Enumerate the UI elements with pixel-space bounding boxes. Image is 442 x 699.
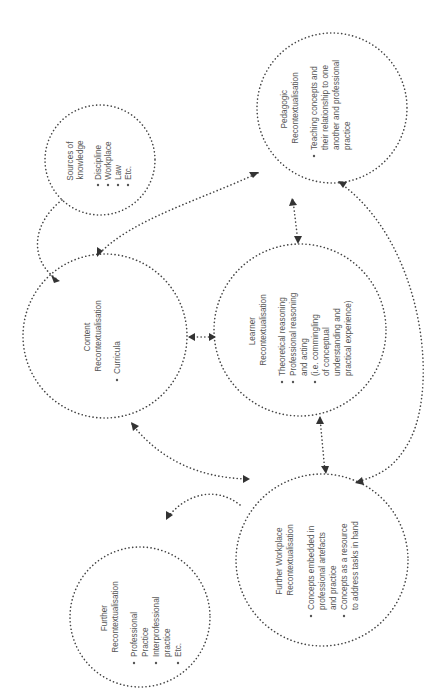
node-further-circle bbox=[70, 547, 210, 687]
node-pedagogic: Pedagogic Recontextualisation Teaching c… bbox=[280, 58, 352, 158]
arrowhead-icon bbox=[166, 511, 173, 520]
list-item: Curricula bbox=[113, 341, 122, 374]
list-item: Teaching concepts and their relationship… bbox=[310, 58, 352, 150]
arrowhead-icon bbox=[321, 466, 329, 474]
node-workplace: Further Workplace Recontextualisation Co… bbox=[275, 521, 360, 617]
arrowhead-icon bbox=[188, 333, 195, 341]
node-items: Discipline Workplace Law Etc. bbox=[94, 141, 133, 186]
node-further: Further Recontextualisation Professional… bbox=[100, 581, 183, 664]
list-item: (i.e. commingling of conceptual understa… bbox=[311, 300, 353, 376]
list-item: Theoretical reasoning bbox=[278, 297, 287, 376]
list-item: Concepts as a resource to address tasks … bbox=[340, 521, 360, 610]
arrowhead-icon bbox=[316, 416, 324, 424]
list-item: Workplace bbox=[104, 141, 113, 180]
arrowhead-icon bbox=[51, 275, 60, 283]
link-pedagogic-content bbox=[98, 173, 258, 255]
node-title: Content Recontextualisation bbox=[83, 300, 103, 372]
list-item: Professional reasoning and acting bbox=[289, 290, 309, 376]
recontextualisation-diagram: Sources of knowledge Discipline Workplac… bbox=[0, 0, 442, 699]
node-title: Further Workplace Recontextualisation bbox=[275, 524, 295, 596]
node-items: Teaching concepts and their relationship… bbox=[310, 58, 352, 158]
node-title: Further Recontextualisation bbox=[100, 581, 120, 653]
node-title: Learner Recontextualisation bbox=[248, 294, 268, 366]
link-learner-workplace bbox=[320, 418, 325, 472]
link-content-workplace bbox=[132, 424, 248, 479]
arrowhead-icon bbox=[243, 475, 250, 483]
arrowhead-icon bbox=[249, 172, 259, 178]
node-items: Theoretical reasoning Professional reaso… bbox=[278, 290, 353, 383]
node-learner: Learner Recontextualisation Theoretical … bbox=[248, 290, 353, 383]
list-item: Professional Practice bbox=[130, 610, 150, 657]
node-content: Content Recontextualisation Curricula bbox=[83, 300, 122, 381]
list-item: Discipline bbox=[94, 145, 103, 180]
node-items: Professional Practice Interprofessional … bbox=[130, 594, 183, 664]
list-item: Law bbox=[114, 165, 123, 180]
list-item: Etc. bbox=[174, 643, 183, 657]
link-pedagogic-learner bbox=[293, 200, 298, 242]
node-title: Pedagogic Recontextualisation bbox=[280, 72, 300, 144]
arrowhead-icon bbox=[294, 236, 302, 244]
node-learner-circle bbox=[214, 244, 386, 416]
link-workplace-further bbox=[168, 494, 240, 517]
arrowhead-icon bbox=[97, 247, 103, 257]
node-content-circle bbox=[23, 254, 187, 418]
list-item: Etc. bbox=[124, 166, 133, 180]
node-title: Sources of knowledge bbox=[66, 139, 85, 180]
node-items: Concepts embedded in professional artefa… bbox=[307, 521, 360, 617]
node-items: Curricula bbox=[113, 341, 122, 381]
arrowhead-icon bbox=[131, 422, 139, 431]
list-item: Concepts embedded in professional artefa… bbox=[307, 524, 338, 611]
node-sources: Sources of knowledge Discipline Workplac… bbox=[66, 139, 133, 186]
list-item: Interprofessional practice bbox=[152, 594, 172, 657]
